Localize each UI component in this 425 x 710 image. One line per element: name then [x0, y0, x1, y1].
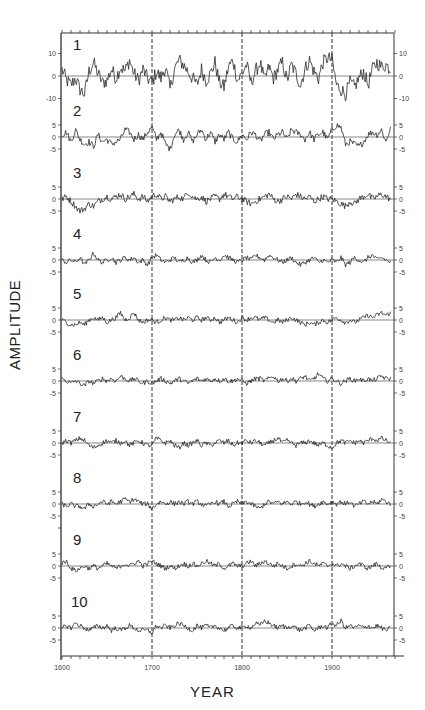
y-tick-label-left: -5 — [50, 146, 56, 153]
panel-number: 4 — [73, 225, 81, 242]
y-tick-label-left: -10 — [46, 95, 56, 102]
y-tick-label-right: -5 — [399, 452, 405, 459]
panel-6: 65500-5-5 — [50, 346, 406, 397]
y-tick-label-left: 0 — [52, 134, 56, 141]
y-tick-label-left: 0 — [52, 257, 56, 264]
panel-10: 105500-5-5 — [50, 593, 406, 644]
y-tick-label-right: 0 — [399, 134, 403, 141]
panel-number: 5 — [73, 285, 81, 302]
y-tick-label-left: 0 — [52, 317, 56, 324]
y-tick-label-right: 5 — [399, 305, 403, 312]
panel-8: 85500-5-5 — [50, 469, 406, 520]
y-tick-label-left: 5 — [52, 184, 56, 191]
panel-1: 1101000-10-10 — [46, 36, 409, 102]
panel-3: 35500-5-5 — [50, 164, 406, 215]
panel-5: 55500-5-5 — [50, 285, 406, 336]
y-axis-label: AMPLITUDE — [6, 280, 23, 370]
series-line — [62, 619, 391, 635]
y-tick-label-left: 0 — [52, 196, 56, 203]
y-tick-label-right: 5 — [399, 489, 403, 496]
y-tick-label-right: 0 — [399, 378, 403, 385]
series-line — [62, 436, 391, 449]
panel-number: 9 — [73, 531, 81, 548]
y-tick-label-right: 0 — [399, 196, 403, 203]
y-tick-label-left: -5 — [50, 390, 56, 397]
reference-lines — [152, 33, 332, 656]
y-tick-label-left: -5 — [50, 575, 56, 582]
series-line — [62, 311, 391, 326]
y-tick-label-right: 5 — [399, 184, 403, 191]
y-tick-label-left: -5 — [50, 637, 56, 644]
x-tick-label: 1800 — [234, 664, 250, 671]
series-panels: 1101000-10-1025500-5-535500-5-545500-5-5… — [46, 36, 409, 644]
y-tick-label-left: 5 — [52, 305, 56, 312]
y-tick-label-left: 5 — [52, 122, 56, 129]
y-tick-label-right: 5 — [399, 613, 403, 620]
y-tick-label-right: -5 — [399, 269, 405, 276]
y-tick-label-right: -5 — [399, 637, 405, 644]
y-tick-label-right: -5 — [399, 208, 405, 215]
y-tick-label-right: 0 — [399, 563, 403, 570]
series-line — [62, 498, 391, 510]
x-tick-labels: 1600170018001900 — [54, 664, 340, 671]
y-tick-label-right: 0 — [399, 317, 403, 324]
panel-number: 7 — [73, 408, 81, 425]
y-tick-label-right: 10 — [399, 50, 407, 57]
y-tick-label-left: 5 — [52, 428, 56, 435]
y-tick-label-right: -5 — [399, 390, 405, 397]
y-tick-label-left: 0 — [52, 563, 56, 570]
y-tick-label-right: 5 — [399, 366, 403, 373]
panel-number: 10 — [71, 593, 88, 610]
panel-number: 2 — [73, 102, 81, 119]
y-tick-label-left: 0 — [52, 501, 56, 508]
series-line — [62, 559, 391, 572]
y-tick-label-right: 0 — [399, 73, 403, 80]
y-tick-label-right: 5 — [399, 122, 403, 129]
y-tick-label-right: 5 — [399, 551, 403, 558]
series-line — [62, 373, 391, 386]
y-tick-label-right: -10 — [399, 95, 409, 102]
series-line — [62, 191, 391, 213]
panel-4: 45500-5-5 — [50, 225, 406, 276]
x-tick-label: 1600 — [54, 664, 70, 671]
panel-7: 75500-5-5 — [50, 408, 406, 459]
y-tick-label-right: 0 — [399, 440, 403, 447]
y-tick-label-right: 5 — [399, 245, 403, 252]
y-tick-label-right: 5 — [399, 428, 403, 435]
y-tick-label-left: 0 — [52, 378, 56, 385]
x-axis-label: YEAR — [0, 683, 425, 700]
y-tick-label-left: 0 — [52, 625, 56, 632]
y-tick-label-left: -5 — [50, 208, 56, 215]
panel-number: 6 — [73, 346, 81, 363]
y-tick-label-left: -5 — [50, 269, 56, 276]
series-line — [62, 53, 391, 101]
y-tick-label-left: 5 — [52, 489, 56, 496]
y-tick-label-left: 0 — [52, 73, 56, 80]
x-tick-label: 1900 — [324, 664, 340, 671]
y-tick-label-left: 5 — [52, 245, 56, 252]
multi-panel-time-series-chart: 1101000-10-1025500-5-535500-5-545500-5-5… — [0, 0, 425, 710]
y-tick-label-right: -5 — [399, 513, 405, 520]
panel-number: 8 — [73, 469, 81, 486]
y-tick-label-right: -5 — [399, 329, 405, 336]
y-tick-label-left: 10 — [48, 50, 56, 57]
panel-number: 3 — [73, 164, 81, 181]
y-tick-label-right: 0 — [399, 257, 403, 264]
series-line — [62, 252, 391, 267]
x-tick-label: 1700 — [144, 664, 160, 671]
y-tick-label-left: 0 — [52, 440, 56, 447]
y-tick-label-right: 0 — [399, 625, 403, 632]
y-tick-label-right: -5 — [399, 146, 405, 153]
y-tick-label-left: -5 — [50, 329, 56, 336]
y-tick-label-left: -5 — [50, 452, 56, 459]
y-tick-label-left: 5 — [52, 551, 56, 558]
y-tick-label-left: -5 — [50, 513, 56, 520]
y-tick-label-left: 5 — [52, 613, 56, 620]
panel-9: 95500-5-5 — [50, 531, 406, 582]
y-tick-label-right: 0 — [399, 501, 403, 508]
y-tick-label-right: -5 — [399, 575, 405, 582]
y-tick-label-left: 5 — [52, 366, 56, 373]
panel-number: 1 — [73, 36, 81, 53]
panel-2: 25500-5-5 — [50, 102, 406, 153]
